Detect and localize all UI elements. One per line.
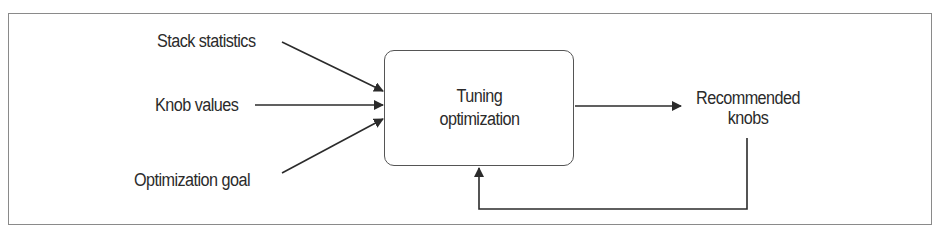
arrow-optimization-goal <box>282 119 383 173</box>
input-label-optimization-goal: Optimization goal <box>134 170 250 190</box>
process-label-line2: optimization <box>439 108 519 131</box>
output-label-line2: knobs <box>689 108 808 128</box>
input-label-knob-values: Knob values <box>155 95 238 115</box>
output-label-line1: Recommended <box>689 88 808 108</box>
input-label-stack-statistics: Stack statistics <box>157 31 255 51</box>
process-box-tuning-optimization: Tuning optimization <box>384 50 574 166</box>
diagram-canvas: Stack statistics Knob values Optimizatio… <box>0 0 945 235</box>
output-label-recommended-knobs: Recommended knobs <box>689 88 808 128</box>
arrow-stack-statistics <box>282 42 383 91</box>
process-label-line1: Tuning <box>439 85 519 108</box>
